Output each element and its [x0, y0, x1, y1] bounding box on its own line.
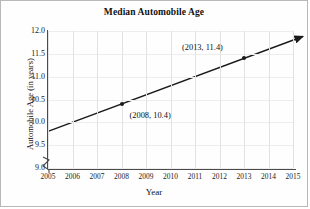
x-tick-label: 2006 [65, 172, 80, 181]
chart-title: Median Automobile Age [1, 7, 307, 17]
vertical-gridline [48, 31, 49, 168]
x-axis-label: Year [1, 187, 307, 197]
y-tick-label: 12.0 [31, 27, 45, 35]
y-tick-label: 10.5 [31, 96, 45, 104]
vertical-gridline [244, 31, 245, 168]
y-tick-label: 11.5 [31, 50, 45, 58]
x-tick-label: 2008 [114, 172, 129, 181]
x-tick-label: 2012 [212, 172, 227, 181]
x-tick-label: 2009 [139, 172, 154, 181]
data-point-annotation: (2013, 11.4) [182, 43, 223, 52]
y-tick-label: 10.0 [31, 118, 45, 126]
vertical-gridline [122, 31, 123, 168]
x-axis [48, 169, 296, 170]
x-tick-label: 2005 [41, 172, 56, 181]
data-point-annotation: (2008, 10.4) [130, 111, 171, 120]
x-tick-label: 2014 [261, 172, 276, 181]
vertical-gridline [73, 31, 74, 168]
trend-line [48, 36, 303, 131]
data-point-marker [120, 102, 124, 106]
x-tick-label: 2007 [90, 172, 105, 181]
data-point-marker [242, 56, 246, 60]
vertical-gridline [146, 31, 147, 168]
chart-frame: Median Automobile Age Automobile Age (in… [0, 0, 308, 207]
x-tick-label: 2011 [188, 172, 203, 181]
x-tick-label: 2010 [163, 172, 178, 181]
vertical-gridline [293, 31, 294, 168]
y-tick-label: 9.5 [35, 141, 45, 149]
y-axis-ticks: 12.011.511.010.510.09.59.0 [1, 1, 45, 209]
x-tick-label: 2015 [286, 172, 301, 181]
vertical-gridline [97, 31, 98, 168]
y-tick-label: 11.0 [31, 73, 45, 81]
vertical-gridline [269, 31, 270, 168]
plot-area: (2008, 10.4)(2013, 11.4) [48, 31, 293, 168]
vertical-gridline [171, 31, 172, 168]
y-axis [47, 30, 48, 169]
x-tick-label: 2013 [237, 172, 252, 181]
axis-break-icon [42, 157, 56, 173]
